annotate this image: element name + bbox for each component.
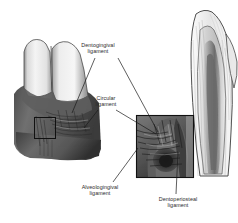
label-dentoperiosteal: Dentoperiosteal ligament — [139, 196, 217, 208]
label-circular-line2: ligament — [76, 101, 136, 107]
inset-right-band — [186, 115, 194, 178]
leader-alveologingival — [113, 148, 138, 182]
label-alveologingival: Alveologingival ligament — [62, 184, 138, 196]
center-inset — [136, 115, 194, 178]
right-illustration — [187, 10, 238, 177]
label-dentoperiosteal-line2: ligament — [139, 202, 217, 208]
label-alveologingival-line2: ligament — [62, 190, 138, 196]
left-tooth-crown-1 — [24, 40, 52, 97]
label-dentogingival: Dentogingival ligament — [58, 42, 138, 54]
label-dentogingival-line2: ligament — [58, 48, 138, 54]
label-circular: Circular ligament — [76, 95, 136, 107]
anatomy-figure: Dentogingival ligament Circular ligament… — [0, 0, 238, 223]
